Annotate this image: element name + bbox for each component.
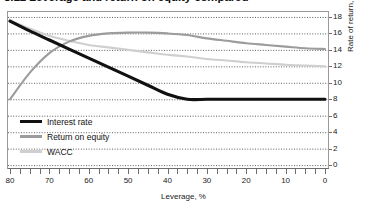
x-tick-mark	[187, 169, 188, 174]
x-tick-mark	[256, 169, 257, 174]
y-tick-mark	[329, 99, 332, 100]
x-tick-label: 80	[0, 176, 20, 185]
x-tick-mark	[59, 169, 60, 174]
y-axis-title: Rate of return, %	[346, 0, 355, 52]
x-tick-label: 60	[79, 176, 99, 185]
y-tick-label: 10	[333, 79, 351, 87]
x-tick-mark	[266, 169, 267, 174]
x-tick-mark	[10, 169, 11, 174]
x-tick-mark	[158, 169, 159, 174]
page-title: 8.12 Leverage and return on equity compa…	[4, 0, 344, 7]
x-tick-mark	[30, 169, 31, 174]
y-tick-label: 4	[333, 128, 351, 136]
y-tick-mark	[329, 50, 332, 51]
y-tick-label: 2	[333, 145, 351, 153]
y-tick-label: 0	[333, 161, 351, 169]
legend-item-return-on-equity[interactable]: Return on equity	[20, 129, 140, 144]
x-tick-mark	[286, 169, 287, 174]
legend-swatch-icon	[20, 150, 42, 152]
x-tick-mark	[217, 169, 218, 174]
legend-label: Return on equity	[47, 132, 109, 142]
x-tick-mark	[236, 169, 237, 174]
y-tick-mark	[329, 165, 332, 166]
x-tick-label: 70	[39, 176, 59, 185]
x-axis-title: Leverage, %	[0, 192, 367, 201]
x-tick-mark	[305, 169, 306, 174]
x-tick-mark	[197, 169, 198, 174]
x-tick-mark	[138, 169, 139, 174]
chart-figure: 8.12 Leverage and return on equity compa…	[0, 0, 367, 206]
legend-swatch-icon	[20, 135, 42, 137]
x-axis-line	[8, 168, 329, 169]
x-tick-mark	[207, 169, 208, 174]
x-tick-mark	[79, 169, 80, 174]
x-tick-mark	[69, 169, 70, 174]
x-tick-mark	[40, 169, 41, 174]
x-tick-label: 30	[197, 176, 217, 185]
legend-item-wacc[interactable]: WACC	[20, 144, 140, 159]
x-tick-label: 50	[118, 176, 138, 185]
y-tick-label: 6	[333, 112, 351, 120]
x-tick-mark	[177, 169, 178, 174]
legend-label: WACC	[47, 147, 73, 157]
x-tick-mark	[227, 169, 228, 174]
legend-label: Interest rate	[47, 117, 92, 127]
x-tick-label: 20	[236, 176, 256, 185]
x-tick-mark	[20, 169, 21, 174]
y-tick-mark	[329, 132, 332, 133]
x-tick-mark	[276, 169, 277, 174]
y-tick-mark	[329, 66, 332, 67]
y-tick-label: 12	[333, 62, 351, 70]
x-tick-label: 10	[276, 176, 296, 185]
legend-swatch-icon	[20, 120, 42, 123]
x-tick-mark	[99, 169, 100, 174]
y-tick-mark	[329, 116, 332, 117]
y-tick-mark	[329, 33, 332, 34]
x-tick-mark	[325, 169, 326, 174]
x-tick-mark	[315, 169, 316, 174]
data-series-group	[10, 20, 325, 99]
y-tick-mark	[329, 83, 332, 84]
x-tick-mark	[246, 169, 247, 174]
x-tick-mark	[49, 169, 50, 174]
x-tick-label: 0	[315, 176, 335, 185]
x-tick-mark	[128, 169, 129, 174]
x-tick-mark	[108, 169, 109, 174]
x-tick-mark	[89, 169, 90, 174]
x-tick-mark	[118, 169, 119, 174]
chart-legend: Interest rateReturn on equityWACC	[20, 114, 140, 159]
legend-item-interest-rate[interactable]: Interest rate	[20, 114, 140, 129]
y-tick-label: 8	[333, 95, 351, 103]
x-tick-mark	[295, 169, 296, 174]
x-tick-mark	[148, 169, 149, 174]
y-tick-mark	[329, 17, 332, 18]
x-tick-label: 40	[158, 176, 178, 185]
y-tick-mark	[329, 149, 332, 150]
x-tick-mark	[168, 169, 169, 174]
